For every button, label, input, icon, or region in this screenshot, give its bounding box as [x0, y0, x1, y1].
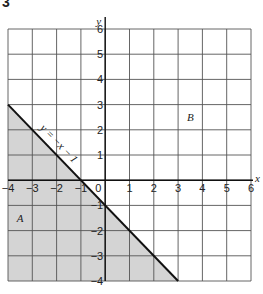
- y-tick-label: −1: [91, 199, 104, 211]
- y-tick-label: −2: [91, 225, 104, 237]
- x-tick-label: 0: [95, 182, 101, 194]
- inequality-graph: −4−3−2−10123456−4−3−2−1123456xy ABy = −x…: [0, 0, 263, 294]
- x-tick-label: −2: [50, 182, 63, 194]
- y-tick-label: 2: [97, 124, 103, 136]
- x-tick-label: −1: [75, 182, 88, 194]
- region-label-a: A: [16, 212, 24, 224]
- x-tick-label: −3: [26, 182, 39, 194]
- region-label-b: B: [187, 111, 194, 123]
- y-axis-label: y: [95, 15, 101, 27]
- x-tick-label: −4: [2, 182, 15, 194]
- x-tick-label: 6: [248, 182, 254, 194]
- x-tick-label: 1: [126, 182, 132, 194]
- x-tick-label: 3: [175, 182, 181, 194]
- y-tick-label: 1: [97, 149, 103, 161]
- x-axis-label: x: [254, 172, 260, 184]
- y-tick-label: −3: [91, 250, 104, 262]
- x-tick-label: 4: [199, 182, 205, 194]
- y-tick-label: 5: [97, 48, 103, 60]
- x-tick-label: 5: [224, 182, 230, 194]
- x-tick-label: 2: [151, 182, 157, 194]
- y-tick-label: −4: [91, 275, 104, 287]
- y-tick-label: 3: [97, 99, 103, 111]
- y-tick-label: 4: [97, 73, 103, 85]
